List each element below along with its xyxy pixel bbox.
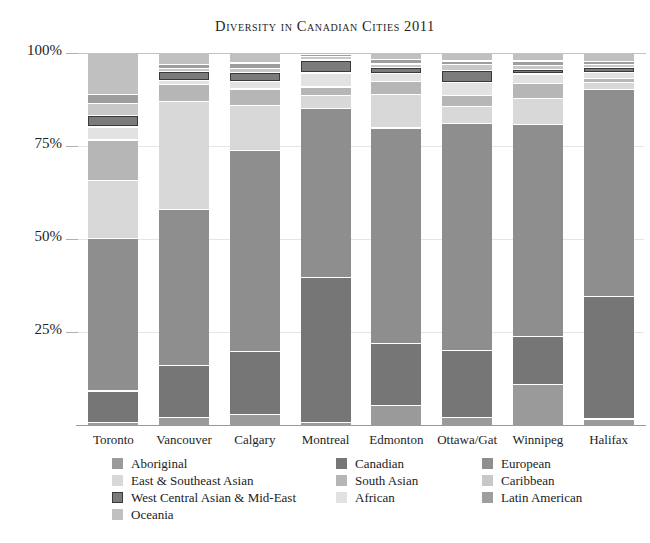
bar-segment[interactable] xyxy=(442,54,492,60)
bar-segment[interactable] xyxy=(584,62,634,64)
bar-stack[interactable] xyxy=(301,53,351,425)
bar-stack[interactable] xyxy=(442,53,492,425)
bar-segment[interactable] xyxy=(513,62,563,66)
bar-segment[interactable] xyxy=(442,83,492,95)
bar-segment[interactable] xyxy=(584,90,634,295)
bar-segment[interactable] xyxy=(301,96,351,108)
bar-segment[interactable] xyxy=(442,418,492,425)
bar-stack[interactable] xyxy=(584,53,634,425)
legend-item[interactable]: European xyxy=(482,455,582,471)
bar-stack[interactable] xyxy=(88,53,138,425)
bar-segment[interactable] xyxy=(159,81,209,84)
bar-segment[interactable] xyxy=(230,69,280,72)
bar-segment[interactable] xyxy=(371,60,421,64)
bar-segment[interactable] xyxy=(371,68,421,73)
bar-segment[interactable] xyxy=(159,102,209,209)
bar-segment[interactable] xyxy=(301,53,351,54)
bar-segment[interactable] xyxy=(513,75,563,83)
legend-item[interactable]: Aboriginal xyxy=(112,455,296,471)
bar-segment[interactable] xyxy=(513,84,563,98)
bar-segment[interactable] xyxy=(88,392,138,422)
bar-segment[interactable] xyxy=(584,68,634,72)
bar-stack[interactable] xyxy=(513,53,563,425)
bar-segment[interactable] xyxy=(442,96,492,106)
bar-segment[interactable] xyxy=(442,71,492,82)
bar-segment[interactable] xyxy=(88,95,138,103)
bar-stack[interactable] xyxy=(230,53,280,425)
legend-swatch-icon xyxy=(112,475,123,486)
legend-item[interactable]: African xyxy=(336,489,418,505)
bar-segment[interactable] xyxy=(88,116,138,126)
bar-segment[interactable] xyxy=(371,344,421,404)
bar-segment[interactable] xyxy=(301,61,351,73)
bar-segment[interactable] xyxy=(371,95,421,127)
bar-segment[interactable] xyxy=(442,351,492,417)
bar-segment[interactable] xyxy=(442,62,492,65)
y-axis-tick: 50% xyxy=(0,239,78,240)
bar-segment[interactable] xyxy=(88,54,138,94)
bar-segment[interactable] xyxy=(584,54,634,61)
bar-segment[interactable] xyxy=(159,72,209,80)
bar-segment[interactable] xyxy=(230,64,280,68)
bar-segment[interactable] xyxy=(88,128,138,140)
bar-segment[interactable] xyxy=(513,385,563,425)
bar-segment[interactable] xyxy=(513,99,563,124)
bar-segment[interactable] xyxy=(88,141,138,181)
bar-segment[interactable] xyxy=(442,124,492,350)
bar-segment[interactable] xyxy=(371,54,421,58)
bar-segment[interactable] xyxy=(584,83,634,89)
bar-segment[interactable] xyxy=(230,82,280,88)
bar-segment[interactable] xyxy=(88,104,138,115)
bar-segment[interactable] xyxy=(301,55,351,56)
bar-segment[interactable] xyxy=(584,73,634,78)
bar-segment[interactable] xyxy=(230,415,280,425)
legend-swatch-icon xyxy=(482,475,493,486)
legend-item[interactable]: West Central Asian & Mid-East xyxy=(112,489,296,505)
bar-segment[interactable] xyxy=(230,73,280,81)
bar-segment[interactable] xyxy=(301,109,351,277)
bar-segment[interactable] xyxy=(159,366,209,417)
bar-segment[interactable] xyxy=(442,107,492,123)
bar-segment[interactable] xyxy=(301,278,351,422)
bar-stack-inner xyxy=(371,53,421,425)
bar-segment[interactable] xyxy=(513,54,563,60)
bar-stack[interactable] xyxy=(371,53,421,425)
bar-segment[interactable] xyxy=(230,106,280,149)
legend-item[interactable]: Canadian xyxy=(336,455,418,471)
bar-segment[interactable] xyxy=(371,406,421,425)
bar-segment[interactable] xyxy=(230,151,280,351)
bar-segment[interactable] xyxy=(301,88,351,95)
bar-segment[interactable] xyxy=(442,65,492,70)
bar-segment[interactable] xyxy=(230,352,280,414)
bar-segment[interactable] xyxy=(159,85,209,101)
bar-segment[interactable] xyxy=(301,74,351,87)
bar-segment[interactable] xyxy=(230,54,280,62)
bar-segment[interactable] xyxy=(513,70,563,74)
bar-segment[interactable] xyxy=(371,129,421,344)
bar-segment[interactable] xyxy=(88,239,138,390)
legend-item[interactable]: East & Southeast Asian xyxy=(112,472,296,488)
bar-segment[interactable] xyxy=(513,66,563,68)
bar-segment[interactable] xyxy=(159,210,209,365)
legend-item[interactable]: South Asian xyxy=(336,472,418,488)
bar-segment[interactable] xyxy=(513,337,563,384)
bar-stack[interactable] xyxy=(159,53,209,425)
bar-segment[interactable] xyxy=(159,54,209,64)
bar-segment[interactable] xyxy=(584,79,634,82)
bar-segment[interactable] xyxy=(371,65,421,67)
bar-segment[interactable] xyxy=(88,181,138,237)
bar-segment[interactable] xyxy=(371,74,421,81)
bar-segment[interactable] xyxy=(159,65,209,68)
bar-segment[interactable] xyxy=(159,418,209,425)
bar-segment[interactable] xyxy=(159,69,209,71)
legend-item[interactable]: Oceania xyxy=(112,506,296,522)
bar-segment[interactable] xyxy=(301,57,351,60)
legend-item[interactable]: Latin American xyxy=(482,489,582,505)
bar-segment[interactable] xyxy=(584,297,634,419)
bar-segment[interactable] xyxy=(230,90,280,106)
bar-segment[interactable] xyxy=(513,125,563,336)
bar-segment[interactable] xyxy=(371,82,421,94)
legend-swatch-icon xyxy=(112,492,123,503)
legend-item[interactable]: Caribbean xyxy=(482,472,582,488)
bar-segment[interactable] xyxy=(584,65,634,67)
